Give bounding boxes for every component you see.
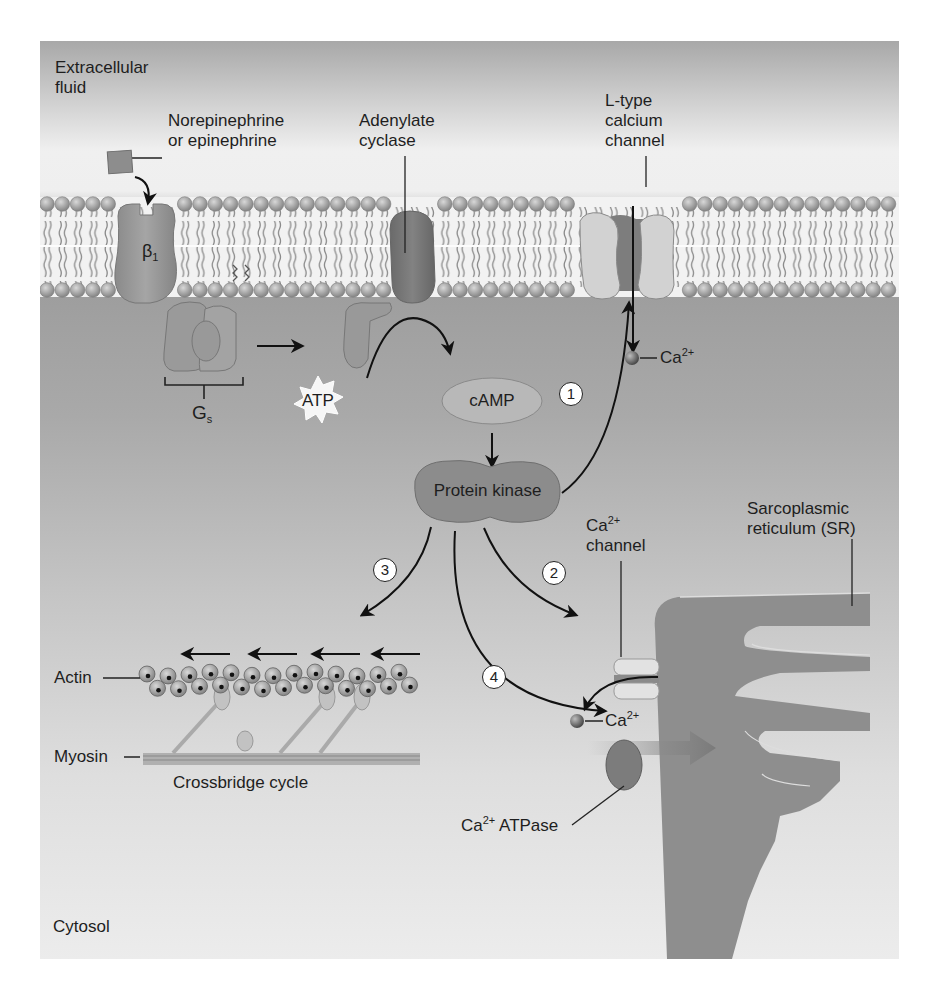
ca-ion-label-1: Ca2+ <box>660 348 694 368</box>
camp-label: cAMP <box>442 391 542 411</box>
step-4-marker: 4 <box>482 665 506 689</box>
step-3-marker: 3 <box>373 558 397 582</box>
diagram-panel: Extracellularfluid Norepinephrineor epin… <box>40 41 899 959</box>
ligand-label: Norepinephrineor epinephrine <box>168 111 284 151</box>
crossbridge-assembly <box>103 654 420 765</box>
g-protein <box>164 302 243 399</box>
step-1-marker: 1 <box>559 382 583 406</box>
sr-channel-label: Ca2+ channel <box>586 516 646 556</box>
adenylate-cyclase <box>390 211 435 303</box>
ca-atpase <box>606 740 642 790</box>
myosin-label: Myosin <box>54 747 108 767</box>
l-type-channel-label: L-typecalciumchannel <box>605 91 665 151</box>
ligand-square <box>107 150 132 174</box>
actin-label: Actin <box>54 668 92 688</box>
sr-calcium-channel <box>585 561 659 709</box>
atp-label: ATP <box>302 391 334 411</box>
cytosol-label: Cytosol <box>53 917 110 937</box>
sr-label: Sarcoplasmicreticulum (SR) <box>747 499 856 539</box>
ca-atpase-label: Ca2+ ATPase <box>461 816 558 836</box>
extracellular-label: Extracellularfluid <box>55 58 149 98</box>
crossbridge-label: Crossbridge cycle <box>173 773 308 793</box>
adenylate-cyclase-label: Adenylatecyclase <box>359 111 435 151</box>
step-2-marker: 2 <box>542 561 566 585</box>
ca-ion-label-2: Ca2+ <box>605 711 639 731</box>
beta1-label: β1 <box>142 241 158 261</box>
protein-kinase-label: Protein kinase <box>415 481 560 501</box>
gs-label: Gs <box>192 403 212 423</box>
